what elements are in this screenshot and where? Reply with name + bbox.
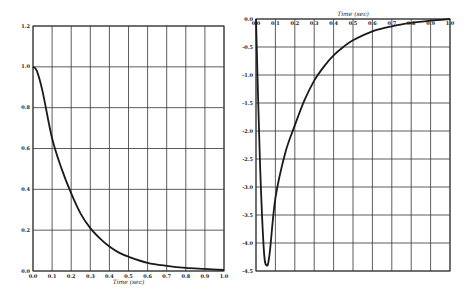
- y-tick-label: 0.0: [244, 16, 253, 22]
- y-tick-label: 0.4: [21, 186, 30, 192]
- x-tick-label: 0.1: [271, 20, 280, 26]
- y-tick-label: -1.5: [242, 100, 253, 106]
- x-tick-label: 1.0: [220, 273, 229, 279]
- y-tick-label: -0.5: [242, 44, 253, 50]
- y-tick-label: -2.0: [242, 128, 253, 134]
- right-chart: 0.00.10.20.30.40.50.60.70.80.91.00.0-0.5…: [242, 10, 455, 274]
- y-tick-label: -1.0: [242, 72, 253, 78]
- y-tick-label: -3.0: [242, 184, 253, 190]
- y-tick-label: -2.5: [242, 156, 253, 162]
- y-tick-label: 0.8: [21, 104, 30, 110]
- y-tick-label: 0.2: [21, 227, 30, 233]
- x-tick-label: 0.6: [368, 20, 377, 26]
- x-tick-label: 0.1: [48, 273, 57, 279]
- y-tick-label: -4.5: [242, 268, 253, 274]
- x-tick-label: 0.0: [29, 273, 38, 279]
- x-tick-label: 0.2: [67, 273, 76, 279]
- x-tick-label: 0.4: [329, 20, 338, 26]
- x-tick-label: 0.3: [310, 20, 319, 26]
- y-tick-label: 1.0: [21, 63, 30, 69]
- gridlines: [256, 19, 450, 271]
- x-tick-label: 0.8: [181, 273, 190, 279]
- x-tick-label: 0.6: [143, 273, 152, 279]
- y-tick-label: 0.0: [21, 268, 30, 274]
- x-tick-label: 0.9: [201, 273, 210, 279]
- x-tick-label: 0.2: [290, 20, 299, 26]
- y-tick-label: -3.5: [242, 212, 253, 218]
- x-tick-label: 0.7: [162, 273, 171, 279]
- chart-canvas: 0.00.10.20.30.40.50.60.70.80.91.00.00.20…: [0, 0, 474, 294]
- gridlines: [33, 26, 224, 271]
- x-tick-label: 0.5: [349, 20, 358, 26]
- left-chart: 0.00.10.20.30.40.50.60.70.80.91.00.00.20…: [21, 23, 229, 286]
- x-axis-label: Time (sec): [337, 10, 369, 17]
- x-axis-label: Time (sec): [113, 278, 145, 285]
- y-tick-label: 0.6: [21, 145, 30, 151]
- y-tick-label: 1.2: [21, 23, 30, 29]
- x-tick-label: 0.3: [86, 273, 95, 279]
- y-tick-label: -4.0: [242, 240, 253, 246]
